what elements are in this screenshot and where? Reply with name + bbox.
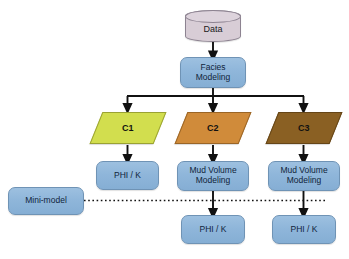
node-c1[interactable]: C1 (90, 112, 167, 144)
node-mud-volume-c3-line2: Modeling (287, 176, 322, 186)
node-facies-modeling-line2: Modeling (196, 73, 231, 83)
node-mud-volume-c2-line2: Modeling (196, 176, 231, 186)
node-phik-c1[interactable]: PHI / K (96, 161, 159, 190)
node-facies-modeling[interactable]: Facies Modeling (180, 57, 246, 88)
node-mini-model[interactable]: Mini-model (8, 187, 84, 215)
node-c2[interactable]: C2 (175, 112, 252, 144)
node-phik-c1-label: PHI / K (114, 171, 141, 181)
node-mud-volume-c2[interactable]: Mud Volume Modeling (177, 161, 249, 191)
diagram-canvas: Data Facies Modeling C1 C2 C3 PHI / K Mu… (0, 0, 349, 259)
node-phik-c3-label: PHI / K (291, 225, 318, 235)
node-phik-c3[interactable]: PHI / K (272, 215, 336, 244)
node-mini-model-label: Mini-model (25, 196, 67, 206)
node-phik-c2-label: PHI / K (200, 225, 227, 235)
node-data[interactable]: Data (185, 10, 241, 42)
node-mud-volume-c3-line1: Mud Volume (280, 166, 327, 176)
node-facies-modeling-line1: Facies (200, 63, 225, 73)
node-mud-volume-c3[interactable]: Mud Volume Modeling (268, 161, 340, 191)
node-mud-volume-c2-line1: Mud Volume (189, 166, 236, 176)
node-c1-label: C1 (122, 123, 134, 133)
cylinder-top-ellipse (185, 10, 241, 23)
node-phik-c2[interactable]: PHI / K (181, 215, 245, 244)
node-c2-label: C2 (207, 123, 219, 133)
node-c3[interactable]: C3 (266, 112, 343, 144)
node-c3-label: C3 (298, 123, 310, 133)
